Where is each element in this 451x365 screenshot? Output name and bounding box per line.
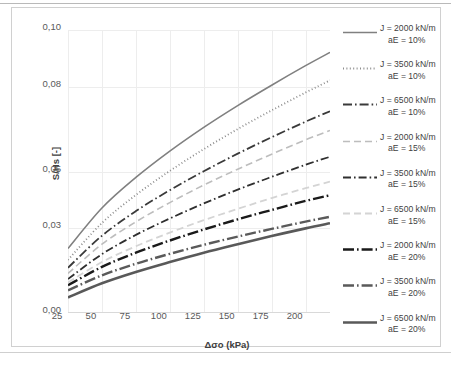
series-line-5 [68,157,330,279]
legend-swatch-dashdot-mid [342,173,378,182]
legend-label-line1: J = 6500 kN/m [380,95,436,105]
legend-label-5: J = 3500 kN/maE = 15% [380,168,451,191]
legend-item-2[interactable]: J = 3500 kN/maE = 10% [342,62,451,92]
chart-figure: S/Hs [-] Δσo (kPa) 0,000,030,050,080,10 … [0,0,451,365]
legend-label-line1: J = 3500 kN/m [380,168,436,178]
legend-swatch-dotted [342,64,378,73]
legend-label-7: J = 2000 kN/maE = 20% [380,240,451,263]
legend-swatch-solid [342,28,378,37]
series-line-1 [68,52,330,248]
legend-label-line2: aE = 20% [380,252,451,264]
plot-area [68,30,330,313]
series-line-3 [68,111,330,268]
page-rule-top [0,3,451,4]
y-tick-label: 0,05 [15,164,61,174]
legend-label-line2: aE = 10% [380,71,451,83]
legend-swatch-dashed-verylight [342,209,378,218]
legend-label-1: J = 2000 kN/maE = 10% [380,23,451,46]
legend-swatch-longdash-dot-grey [342,281,378,290]
legend-label-line1: J = 3500 kN/m [380,276,436,286]
legend-label-9: J = 6500 kN/maE = 20% [380,313,451,336]
legend-label-line2: aE = 20% [380,324,451,336]
legend-label-line1: J = 3500 kN/m [380,59,436,69]
legend-label-line1: J = 2000 kN/m [380,23,436,33]
legend-label-line2: aE = 10% [380,35,451,47]
x-axis-title: Δσo (kPa) [157,339,297,350]
legend-item-4[interactable]: J = 2000 kN/maE = 15% [342,135,451,165]
legend-label-line1: J = 2000 kN/m [380,132,436,142]
legend-item-5[interactable]: J = 3500 kN/maE = 15% [342,171,451,201]
legend-label-3: J = 6500 kN/maE = 10% [380,95,451,118]
x-axis-line [68,312,330,313]
chart-legend: J = 2000 kN/maE = 10%J = 3500 kN/maE = 1… [342,26,451,356]
chart-frame: S/Hs [-] Δσo (kPa) 0,000,030,050,080,10 … [11,7,441,347]
legend-item-1[interactable]: J = 2000 kN/maE = 10% [342,26,451,56]
y-tick-label: 0,10 [15,22,61,32]
legend-label-line1: J = 6500 kN/m [380,313,436,323]
legend-label-2: J = 3500 kN/maE = 10% [380,59,451,82]
legend-item-6[interactable]: J = 6500 kN/maE = 15% [342,207,451,237]
legend-item-7[interactable]: J = 2000 kN/maE = 20% [342,243,451,273]
legend-label-line2: aE = 15% [380,143,451,155]
legend-swatch-solid-bold [342,318,378,327]
legend-item-9[interactable]: J = 6500 kN/maE = 20% [342,316,451,346]
legend-label-8: J = 3500 kN/maE = 20% [380,276,451,299]
y-tick-label: 0,08 [15,79,61,89]
series-curves [68,30,330,313]
legend-label-line2: aE = 20% [380,288,451,300]
legend-label-line1: J = 2000 kN/m [380,240,436,250]
legend-swatch-dashdot-dark [342,100,378,109]
legend-label-line2: aE = 15% [380,179,451,191]
legend-label-4: J = 2000 kN/maE = 15% [380,132,451,155]
legend-label-6: J = 6500 kN/maE = 15% [380,204,451,227]
legend-item-3[interactable]: J = 6500 kN/maE = 10% [342,98,451,128]
series-line-9 [68,223,330,297]
legend-label-line1: J = 6500 kN/m [380,204,436,214]
legend-swatch-longdash-dot-bold [342,245,378,254]
legend-label-line2: aE = 15% [380,216,451,228]
legend-swatch-dashed-light [342,137,378,146]
series-line-7 [68,195,330,285]
legend-item-8[interactable]: J = 3500 kN/maE = 20% [342,279,451,309]
y-tick-label: 0,03 [15,220,61,230]
legend-label-line2: aE = 10% [380,107,451,119]
